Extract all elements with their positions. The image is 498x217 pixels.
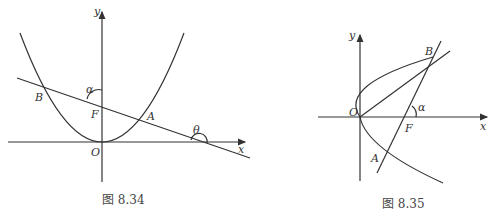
label-alpha: α xyxy=(418,101,426,114)
caption-8-35: 图 8.35 xyxy=(382,197,425,211)
label-F: F xyxy=(90,108,99,121)
diagram-canvas: y x O F A B α θ 图 8.34 y x O F A B α 图 8… xyxy=(0,0,498,217)
label-O: O xyxy=(349,106,358,119)
label-B: B xyxy=(34,91,43,104)
label-alpha: α xyxy=(86,83,94,96)
alpha-arc xyxy=(412,106,416,117)
figure-8-35: y x O F A B α 图 8.35 xyxy=(318,29,487,211)
label-x: x xyxy=(238,143,245,156)
figure-8-34: y x O F A B α θ 图 8.34 xyxy=(8,5,250,207)
label-F: F xyxy=(404,122,413,135)
label-O: O xyxy=(91,146,100,159)
segment-OB xyxy=(360,51,450,117)
label-A: A xyxy=(370,152,379,165)
label-y: y xyxy=(93,5,101,18)
parabola-curve xyxy=(356,57,443,183)
label-theta: θ xyxy=(193,124,200,137)
focal-chord-line xyxy=(377,41,441,173)
label-y: y xyxy=(348,29,356,42)
chord-line xyxy=(17,78,250,158)
label-x: x xyxy=(480,120,487,133)
caption-8-34: 图 8.34 xyxy=(102,193,145,207)
label-A: A xyxy=(146,110,155,123)
label-B: B xyxy=(424,45,433,58)
